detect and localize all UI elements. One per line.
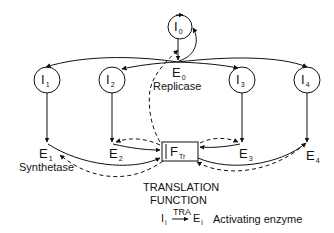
edge-e0-i4 (178, 58, 307, 67)
label-e2-sub: 2 (119, 155, 123, 162)
label-i0-base: I (174, 19, 178, 34)
caption-function: FUNCTION (150, 195, 207, 206)
legend-to: Ei (193, 213, 203, 226)
label-i3-sub: 3 (241, 81, 245, 88)
legend-to-base: E (193, 212, 200, 224)
legend-from-sub: i (165, 219, 167, 226)
caption-translation: TRANSLATION (143, 182, 219, 193)
edge-ftr-e3-dashed (200, 138, 238, 143)
legend-description: Activating enzyme (213, 214, 302, 225)
label-ftr-sub: Tr (179, 153, 185, 160)
label-i4-base: I (301, 72, 305, 87)
label-i3-base: I (236, 72, 240, 87)
label-i2-sub: 2 (111, 81, 115, 88)
label-ftr: FTr (170, 145, 185, 160)
label-e4: E4 (306, 149, 320, 164)
label-e3-sub: 3 (249, 155, 253, 162)
label-e1-base: E (39, 146, 48, 161)
legend-from-base: I (161, 212, 164, 224)
label-i4-sub: 4 (306, 81, 310, 88)
label-i0-sub: 0 (179, 28, 183, 35)
legend-arrow-label: TRA (173, 208, 191, 217)
label-ftr-base: F (170, 144, 178, 159)
label-i4: I4 (301, 73, 310, 88)
label-i1-base: I (41, 72, 45, 87)
label-e1: E1 (39, 147, 53, 162)
edge-e0-i1 (46, 58, 178, 67)
label-e3: E3 (239, 147, 253, 162)
label-i0: I0 (174, 20, 183, 35)
label-e2: E2 (109, 147, 123, 162)
label-e4-base: E (306, 148, 315, 163)
label-replicase: Replicase (153, 81, 201, 92)
edge-e0-i3 (178, 62, 238, 68)
label-e0-base: E (172, 65, 181, 80)
label-e3-base: E (239, 146, 248, 161)
label-i1: I1 (41, 73, 50, 88)
label-i2: I2 (106, 73, 115, 88)
edge-ftr-e2-dashed (116, 139, 160, 145)
label-e0: E0 (172, 66, 186, 81)
edge-e3-ftr-solid (200, 144, 240, 147)
label-i3: I3 (236, 73, 245, 88)
legend-to-sub: i (201, 219, 203, 226)
legend-from: Ii (161, 213, 167, 226)
label-i1-sub: 1 (46, 81, 50, 88)
label-i2-base: I (106, 72, 110, 87)
edge-e0-i2 (122, 62, 178, 69)
label-e4-sub: 4 (316, 157, 320, 164)
label-synthetase: Synthetase (19, 162, 74, 173)
label-e2-base: E (109, 146, 118, 161)
